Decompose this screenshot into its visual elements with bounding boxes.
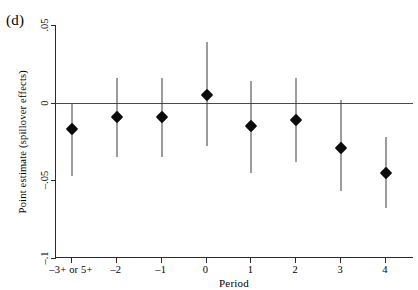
- y-axis-tick: [51, 103, 56, 104]
- x-axis-tick: [206, 258, 207, 263]
- data-point-marker: [290, 113, 303, 126]
- x-axis-tick-label: 3: [337, 264, 342, 275]
- x-axis-tick-label: –3+ or 5+: [49, 264, 92, 275]
- x-axis: –3+ or 5+–2–101234 Period: [55, 258, 413, 290]
- x-axis-tick: [116, 258, 117, 263]
- x-axis-tick-label: 4: [382, 264, 387, 275]
- x-axis-tick: [71, 258, 72, 263]
- x-axis-tick: [385, 258, 386, 263]
- plot-inner: .050–.05–.1: [56, 25, 413, 257]
- x-axis-tick: [295, 258, 296, 263]
- data-point-marker: [200, 89, 213, 102]
- x-axis-tick: [250, 258, 251, 263]
- x-axis-tick-label: 2: [293, 264, 298, 275]
- data-point-marker: [155, 110, 168, 123]
- y-axis-tick-label: .05: [39, 18, 50, 31]
- x-axis-tick: [161, 258, 162, 263]
- plot-area: .050–.05–.1: [55, 25, 413, 258]
- y-axis-tick: [51, 25, 56, 26]
- x-axis-tick-label: 1: [248, 264, 253, 275]
- data-point-marker: [245, 120, 258, 133]
- y-axis-tick-label: –.1: [39, 251, 50, 264]
- y-axis-tick-label: –.05: [39, 171, 50, 189]
- x-axis-tick-label: –1: [155, 264, 166, 275]
- x-axis-title: Period: [55, 277, 413, 289]
- y-axis-title: Point estimate (spillover effects): [14, 25, 30, 258]
- y-axis-tick-label: 0: [39, 100, 50, 105]
- data-point-marker: [110, 110, 123, 123]
- y-axis-tick: [51, 180, 56, 181]
- data-point-marker: [335, 141, 348, 154]
- x-axis-tick-label: 0: [203, 264, 208, 275]
- y-axis-title-text: Point estimate (spillover effects): [17, 70, 28, 213]
- x-axis-tick-label: –2: [110, 264, 121, 275]
- x-axis-tick: [340, 258, 341, 263]
- figure-panel-d: (d) Point estimate (spillover effects) .…: [0, 0, 418, 290]
- data-point-marker: [380, 166, 393, 179]
- zero-reference-line: [56, 103, 413, 104]
- data-point-marker: [66, 123, 79, 136]
- error-bar: [72, 103, 73, 176]
